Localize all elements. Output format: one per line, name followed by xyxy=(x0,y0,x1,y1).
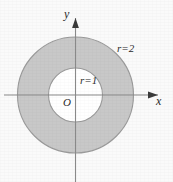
x-axis-label: x xyxy=(156,95,161,107)
y-axis-arrowhead xyxy=(72,18,79,28)
annulus-diagram-svg xyxy=(0,0,173,182)
outer-radius-label: r=2 xyxy=(117,43,134,54)
figure-container: y x O r=2 r=1 xyxy=(0,0,173,182)
origin-label: O xyxy=(63,97,71,108)
y-axis-label: y xyxy=(64,8,69,20)
inner-radius-label: r=1 xyxy=(80,75,97,86)
